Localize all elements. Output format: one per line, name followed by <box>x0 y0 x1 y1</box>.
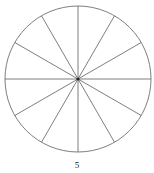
circle-center-point <box>76 77 79 80</box>
figure-caption: 5 <box>0 160 154 170</box>
sector-circle-diagram <box>0 0 154 173</box>
diagram-background <box>0 0 154 173</box>
figure-container: 5 <box>0 0 154 173</box>
